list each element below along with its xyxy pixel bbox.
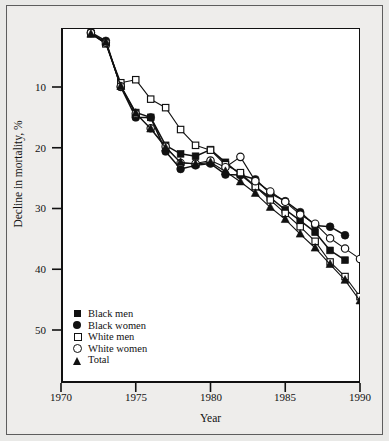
chart-legend: Black men Black women White men White wo…: [72, 308, 147, 366]
x-tick-label-1985: 1985: [265, 391, 305, 403]
x-tick-label-1975: 1975: [116, 391, 156, 403]
y-tick-label-10: 10: [22, 81, 46, 93]
filled-triangle-marker-icon: [72, 355, 85, 366]
x-axis-title: Year: [61, 412, 360, 424]
data-series-group: [87, 28, 364, 304]
open-square-marker-icon: [72, 331, 85, 342]
legend-item-white-men: White men: [72, 331, 147, 343]
legend-item-black-men: Black men: [72, 308, 147, 320]
legend-label-white-men: White men: [88, 331, 134, 343]
y-tick-label-40: 40: [22, 263, 46, 275]
filled-square-marker-icon: [72, 308, 85, 319]
legend-label-black-men: Black men: [88, 308, 133, 320]
filled-circle-marker-icon: [72, 320, 85, 331]
x-tick-label-1970: 1970: [41, 391, 81, 403]
x-tick-label-1980: 1980: [191, 391, 231, 403]
legend-label-white-women: White women: [88, 343, 147, 355]
open-circle-marker-icon: [72, 343, 85, 354]
legend-item-total: Total: [72, 354, 147, 366]
chart-canvas: [0, 0, 389, 441]
y-axis-title: Decline in mortality, %: [12, 94, 24, 254]
legend-item-white-women: White women: [72, 343, 147, 355]
y-tick-label-20: 20: [22, 142, 46, 154]
figure-container: 10 20 30 40 50 1970 1975 1980 1985 1990 …: [0, 0, 389, 441]
y-tick-label-50: 50: [22, 324, 46, 336]
y-tick-label-30: 30: [22, 202, 46, 214]
legend-label-total: Total: [88, 354, 109, 366]
legend-label-black-women: Black women: [88, 320, 146, 332]
x-tick-label-1990: 1990: [340, 391, 380, 403]
legend-item-black-women: Black women: [72, 320, 147, 332]
